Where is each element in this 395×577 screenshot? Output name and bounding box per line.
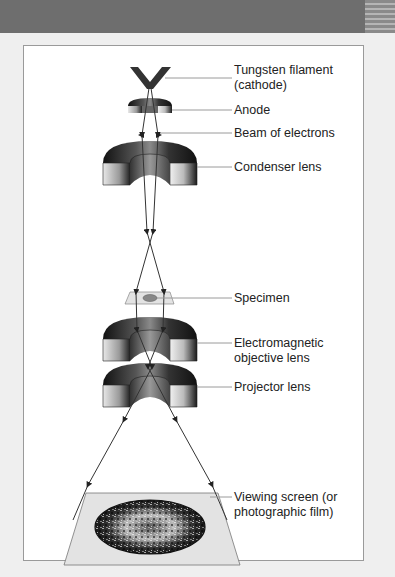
objective-lens [103,317,197,361]
anode [128,98,172,113]
label-beam-text: Beam of electrons [234,126,335,141]
label-specimen: Specimen [234,291,290,306]
viewing-screen [64,493,240,565]
label-objective-line1: Electromagnetic [234,336,324,351]
label-filament-line2: (cathode) [234,78,333,93]
label-filament-line1: Tungsten filament [234,63,333,78]
label-objective: Electromagnetic objective lens [234,336,324,366]
label-filament: Tungsten filament (cathode) [234,63,333,93]
label-objective-line2: objective lens [234,351,324,366]
label-screen: Viewing screen (or photographic film) [234,490,337,520]
label-screen-line2: photographic film) [234,505,337,520]
label-projector-text: Projector lens [234,380,310,395]
label-projector: Projector lens [234,380,310,395]
label-anode-text: Anode [234,103,270,118]
label-beam: Beam of electrons [234,126,335,141]
condenser-lens [103,141,197,185]
label-condenser: Condenser lens [234,160,322,175]
label-condenser-text: Condenser lens [234,160,322,175]
projector-lens [103,363,197,407]
label-anode: Anode [234,103,270,118]
leader-lines [157,78,232,497]
label-specimen-text: Specimen [234,291,290,306]
label-screen-line1: Viewing screen (or [234,490,337,505]
tungsten-filament [130,67,171,89]
